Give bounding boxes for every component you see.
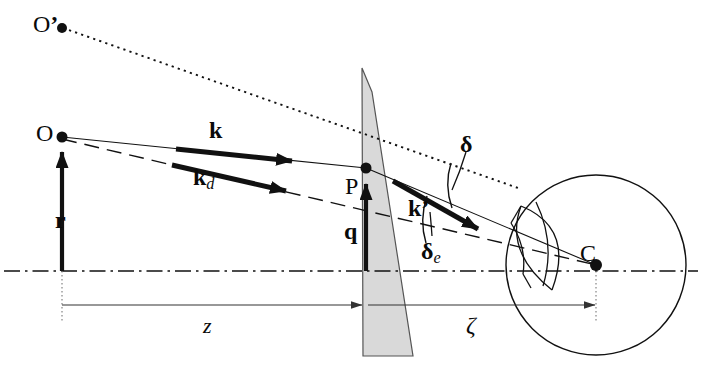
- dimension-label-z: z: [203, 315, 212, 337]
- ray-dotted-oprime: [63, 28, 518, 188]
- dot-p: [361, 163, 372, 174]
- point-label-o: O: [36, 121, 53, 145]
- vector-label-r: r: [55, 208, 66, 232]
- angle-leader-delta-e: [430, 212, 432, 236]
- dimension-label-zeta: ζ: [466, 313, 476, 337]
- dot-o: [57, 132, 68, 143]
- vector-label-q: q: [344, 219, 357, 243]
- vector-k: [176, 149, 292, 161]
- vector-label-kd: kd: [193, 165, 215, 192]
- vector-label-k: k: [209, 118, 222, 142]
- vector-label-k-prime: k’: [408, 196, 429, 220]
- dimension-leaders: [62, 271, 596, 322]
- point-label-p: P: [345, 174, 358, 198]
- angle-arc-delta: [448, 163, 452, 208]
- vector-kd: [172, 165, 286, 191]
- prism-wedge: [362, 68, 413, 356]
- point-label-o-prime: O’: [33, 12, 58, 36]
- angle-leader-delta: [452, 152, 466, 190]
- point-dots: [57, 23, 603, 271]
- vector-k-prime: [393, 181, 478, 229]
- angle-label-delta-e: δe: [421, 239, 441, 266]
- point-label-c: C: [580, 241, 596, 265]
- figure-canvas: O’ O P C r k kd q k’ δ δe z ζ: [0, 0, 702, 379]
- angle-label-delta: δ: [460, 132, 472, 156]
- dot-o-prime: [57, 23, 67, 33]
- ray-dashed-deviated: [62, 139, 596, 265]
